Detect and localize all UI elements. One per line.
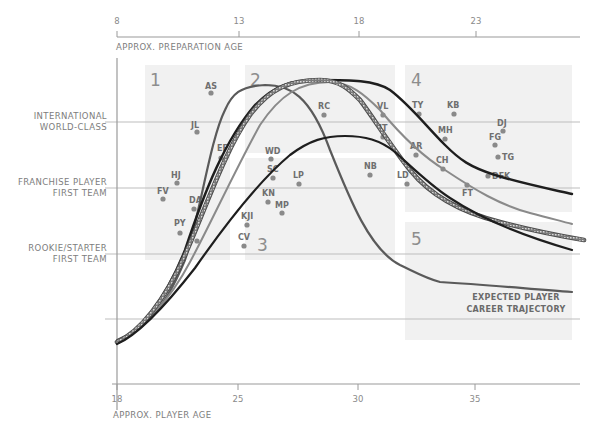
player-dot — [367, 172, 372, 177]
player-initials: FT — [462, 189, 473, 198]
player-dot — [160, 196, 165, 201]
y-level-label: FRANCHISE PLAYER — [18, 177, 107, 187]
player-dot — [174, 180, 179, 185]
legend-text: EXPECTED PLAYER — [472, 293, 559, 302]
player-dot — [321, 112, 326, 117]
player-dot — [279, 210, 284, 215]
player-dot — [244, 222, 249, 227]
bottom-axis-player-age: 18253035APPROX. PLAYER AGE — [112, 384, 580, 420]
player-dot — [177, 230, 182, 235]
player-initials: WD — [265, 147, 281, 156]
player-initials: FG — [489, 133, 501, 142]
player-dot — [268, 156, 273, 161]
player-point: LD — [397, 171, 410, 187]
top-axis-title: APPROX. PREPARATION AGE — [116, 42, 243, 52]
player-initials: LP — [293, 171, 304, 180]
player-dot — [413, 152, 418, 157]
y-level-label: FIRST TEAM — [53, 188, 107, 198]
region-5 — [405, 222, 572, 340]
player-initials: MP — [275, 201, 289, 210]
player-dot — [500, 128, 505, 133]
player-dot — [194, 129, 199, 134]
bottom-tick-label: 35 — [470, 394, 481, 404]
player-dot — [265, 199, 270, 204]
player-initials: CH — [436, 156, 449, 165]
bottom-tick-label: 30 — [353, 394, 364, 404]
player-dot — [495, 154, 500, 159]
legend-text: CAREER TRAJECTORY — [466, 305, 565, 314]
player-dot — [191, 206, 196, 211]
region-1 — [145, 65, 230, 260]
y-axis: INTERNATIONALWORLD-CLASSFRANCHISE PLAYER… — [18, 58, 117, 410]
player-initials: KJI — [241, 212, 253, 221]
bottom-tick-label: 25 — [233, 394, 244, 404]
player-initials: NB — [364, 162, 377, 171]
player-initials: LD — [397, 171, 409, 180]
bottom-tick-label: 18 — [112, 394, 123, 404]
player-dot — [451, 111, 456, 116]
y-level-label: WORLD-CLASS — [40, 122, 107, 132]
y-level-label: FIRST TEAM — [53, 254, 107, 264]
top-tick-label: 8 — [114, 16, 119, 26]
y-level-label: INTERNATIONAL — [34, 111, 107, 121]
player-initials: FV — [157, 187, 169, 196]
x-axis-title: APPROX. PLAYER AGE — [113, 410, 212, 420]
player-dot — [241, 243, 246, 248]
top-tick-label: 18 — [354, 16, 365, 26]
player-initials: KB — [447, 101, 459, 110]
player-dot — [442, 136, 447, 141]
player-initials: AS — [205, 82, 217, 91]
player-initials: CV — [238, 233, 251, 242]
region-number: 3 — [257, 235, 268, 255]
player-dot — [270, 175, 275, 180]
player-initials: TG — [502, 153, 514, 162]
region-number: 5 — [411, 229, 422, 249]
region-number: 4 — [411, 70, 422, 90]
player-dot — [296, 181, 301, 186]
player-initials: PY — [174, 219, 186, 228]
player-initials: JL — [190, 121, 199, 130]
player-initials: KN — [262, 189, 275, 198]
player-initials: DJ — [497, 119, 507, 128]
player-dot — [208, 90, 213, 95]
region-number: 1 — [150, 70, 161, 90]
player-initials: HJ — [171, 171, 181, 180]
player-initials: MH — [438, 126, 453, 135]
player-point — [194, 238, 199, 243]
top-tick-label: 23 — [471, 16, 482, 26]
top-tick-label: 13 — [234, 16, 245, 26]
player-initials: RC — [318, 102, 330, 111]
player-dot — [492, 142, 497, 147]
top-axis-preparation-age: 8131823APPROX. PREPARATION AGE — [114, 16, 580, 52]
player-dot — [404, 181, 409, 186]
player-dot — [194, 238, 199, 243]
player-initials: TY — [412, 101, 423, 110]
y-level-label: ROOKIE/STARTER — [28, 243, 107, 253]
career-trajectory-chart: 8131823APPROX. PREPARATION AGE INTERNATI… — [0, 0, 595, 436]
